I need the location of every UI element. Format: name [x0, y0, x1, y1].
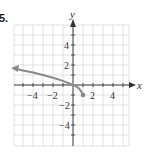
curve-arrow-icon — [11, 65, 19, 72]
x-axis-arrow-icon — [129, 82, 136, 88]
x-tick-label: 4 — [110, 90, 115, 101]
graph: −4 −2 2 4 4 2 −2 −4 x y — [0, 0, 149, 163]
y-axis-label: y — [69, 8, 75, 20]
x-tick-label: −2 — [47, 90, 58, 101]
x-tick-label: 2 — [90, 90, 95, 101]
y-tick-label: 2 — [64, 60, 69, 71]
y-axis-arrow-icon — [70, 19, 76, 27]
start-point-dot — [81, 93, 86, 98]
y-tick-label: −4 — [59, 120, 70, 131]
x-tick-label: −4 — [27, 90, 38, 101]
y-tick-label: −2 — [59, 100, 70, 111]
x-axis-label: x — [136, 79, 142, 91]
y-tick-label: 4 — [64, 40, 69, 51]
